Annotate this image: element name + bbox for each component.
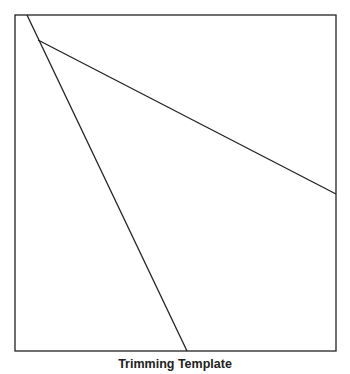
figure-caption: Trimming Template [0, 357, 350, 371]
shallow-cut-line [38, 40, 336, 194]
trimming-template-diagram [0, 0, 350, 374]
template-frame [15, 15, 336, 351]
steep-cut-line [27, 15, 187, 351]
